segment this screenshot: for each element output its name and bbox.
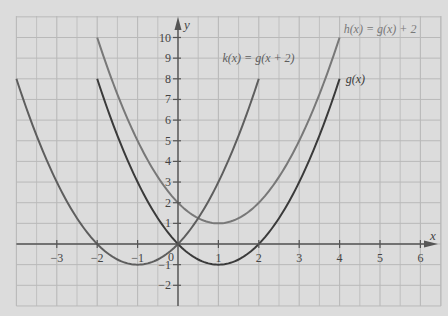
x-tick-label: 3 (296, 251, 302, 265)
x-tick-label: −2 (91, 251, 104, 265)
y-tick-label: 10 (159, 31, 171, 45)
y-tick-label: 5 (165, 134, 171, 148)
chart-background (0, 0, 448, 316)
x-axis-label: x (429, 228, 436, 243)
x-tick-label: 2 (256, 251, 262, 265)
y-tick-label: 7 (165, 92, 171, 106)
x-tick-label: 5 (377, 251, 383, 265)
y-tick-label: 8 (165, 72, 171, 86)
series-label-hx: h(x) = g(x) + 2 (344, 22, 417, 36)
chart: x y 0 −3−2−1123456−2−112345678910 g(x)h(… (0, 0, 448, 316)
y-tick-label: 6 (165, 113, 171, 127)
y-tick-label: −2 (158, 278, 171, 292)
series-label-gx: g(x) (346, 72, 365, 86)
x-tick-label: −3 (50, 251, 63, 265)
y-tick-label: 9 (165, 51, 171, 65)
x-tick-label: −1 (131, 251, 144, 265)
x-tick-label: 1 (215, 251, 221, 265)
y-tick-label: 2 (165, 196, 171, 210)
y-axis-label: y (182, 17, 190, 32)
y-tick-label: 1 (165, 216, 171, 230)
y-tick-label: 4 (165, 154, 171, 168)
x-tick-label: 4 (337, 251, 343, 265)
y-tick-label: 3 (165, 175, 171, 189)
x-tick-label: 6 (417, 251, 423, 265)
y-tick-label: −1 (158, 258, 171, 272)
series-label-kx: k(x) = g(x + 2) (222, 51, 294, 65)
